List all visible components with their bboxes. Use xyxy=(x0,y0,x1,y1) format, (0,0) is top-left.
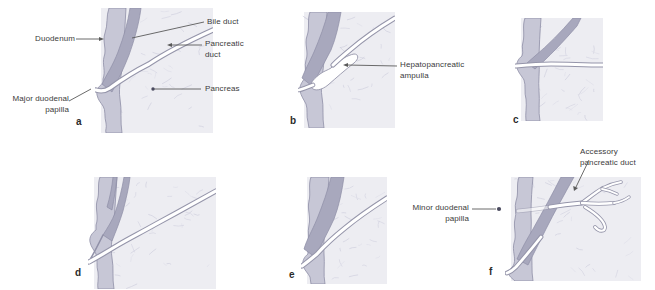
pancreatic-duct-lumen xyxy=(582,203,614,204)
panel-b-illustration xyxy=(298,12,395,128)
panel-d-illustration xyxy=(88,177,216,289)
panel-d xyxy=(88,177,216,289)
label-minor-duodenal-papilla: Minor duodenal papilla xyxy=(407,203,469,224)
panel-b xyxy=(298,12,395,128)
label-pancreatic-duct: Pancreatic duct xyxy=(205,39,253,60)
panel-a xyxy=(95,8,213,133)
panel-f xyxy=(505,177,641,281)
panel-letter-a: a xyxy=(76,116,82,127)
panel-e-illustration xyxy=(301,177,387,284)
label-hepatopancreatic-ampulla: Hepatopancreatic ampulla xyxy=(400,60,482,81)
label-duodenum: Duodenum xyxy=(30,34,75,45)
duodenum-wall-shape xyxy=(517,18,541,121)
panel-e xyxy=(301,177,387,284)
anatomy-figure: a b c d e f Duodenum Bile duct Pancreati… xyxy=(0,0,655,290)
label-pancreas: Pancreas xyxy=(205,84,255,95)
panel-letter-f: f xyxy=(489,266,492,277)
panel-letter-b: b xyxy=(290,115,296,126)
panel-a-illustration xyxy=(95,8,213,133)
panel-letter-d: d xyxy=(75,267,81,278)
label-accessory-pancreatic-duct: Accessory pancreatic duct xyxy=(580,147,644,168)
panel-c xyxy=(515,18,603,121)
label-major-duodenal-papilla: Major duodenal papilla xyxy=(6,94,69,115)
panel-letter-e: e xyxy=(289,269,295,280)
major-papilla-leader xyxy=(69,89,91,101)
minor-papilla-leader-dot xyxy=(497,207,501,211)
panel-f-illustration xyxy=(505,177,641,281)
label-bile-duct: Bile duct xyxy=(207,17,257,28)
panel-letter-c: c xyxy=(513,114,519,125)
panel-c-illustration xyxy=(515,18,603,121)
